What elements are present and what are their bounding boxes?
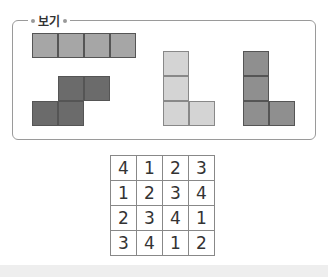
example-label: 보기 xyxy=(38,12,60,29)
grid-cell: 3 xyxy=(163,181,189,206)
grid-cell: 3 xyxy=(189,156,215,181)
bullet-dot-icon xyxy=(63,19,67,23)
piece-cell xyxy=(58,33,84,58)
piece-cell xyxy=(84,33,110,58)
piece-cell xyxy=(84,76,110,101)
grid-cell: 4 xyxy=(137,231,163,256)
grid-cell: 3 xyxy=(137,206,163,231)
piece-cell xyxy=(243,51,269,76)
grid-cell: 1 xyxy=(111,181,137,206)
piece-cell xyxy=(58,76,84,101)
piece-cell xyxy=(58,101,84,126)
piece-cell xyxy=(110,33,136,58)
piece-cell xyxy=(269,101,295,126)
piece-cell xyxy=(32,101,58,126)
grid-cell: 2 xyxy=(137,181,163,206)
piece-cell xyxy=(243,76,269,101)
grid-cell: 4 xyxy=(163,206,189,231)
piece-cell xyxy=(163,101,189,126)
grid-cell: 3 xyxy=(111,231,137,256)
number-grid: 4 1 2 3 1 2 3 4 2 3 4 1 3 4 1 2 xyxy=(110,155,215,256)
bottom-band xyxy=(0,265,328,277)
piece-cell xyxy=(163,76,189,101)
piece-cell xyxy=(163,51,189,76)
grid-cell: 1 xyxy=(189,206,215,231)
example-legend: 보기 xyxy=(28,12,70,29)
grid-cell: 4 xyxy=(111,156,137,181)
grid-row: 4 1 2 3 xyxy=(111,156,215,181)
grid-cell: 1 xyxy=(163,231,189,256)
grid-cell: 2 xyxy=(189,231,215,256)
piece-cell xyxy=(189,101,215,126)
grid-cell: 2 xyxy=(163,156,189,181)
piece-cell xyxy=(243,101,269,126)
grid-cell: 1 xyxy=(137,156,163,181)
grid-cell: 2 xyxy=(111,206,137,231)
piece-cell xyxy=(32,33,58,58)
bullet-dot-icon xyxy=(31,19,35,23)
grid-row: 3 4 1 2 xyxy=(111,231,215,256)
grid-row: 1 2 3 4 xyxy=(111,181,215,206)
grid-cell: 4 xyxy=(189,181,215,206)
grid-row: 2 3 4 1 xyxy=(111,206,215,231)
